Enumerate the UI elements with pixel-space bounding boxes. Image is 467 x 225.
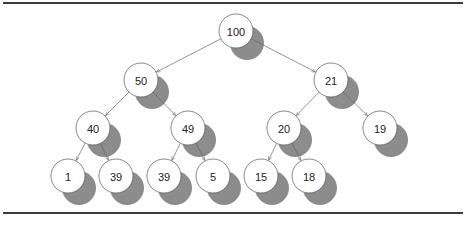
- tree-node: 39: [147, 159, 181, 193]
- tree-node: 15: [244, 159, 278, 193]
- tree-node: 50: [124, 63, 158, 97]
- node-label: 21: [325, 75, 337, 87]
- node-label: 18: [303, 171, 315, 183]
- tree-node: 39: [99, 159, 133, 193]
- tree-node: 19: [363, 111, 397, 145]
- node-label: 19: [374, 123, 386, 135]
- node-label: 40: [87, 123, 99, 135]
- node-label: 1: [65, 171, 71, 183]
- node-label: 20: [278, 123, 290, 135]
- tree-edge-arrow: [296, 92, 319, 115]
- node-label: 39: [110, 171, 122, 183]
- node-label: 100: [227, 26, 245, 38]
- node-label: 39: [158, 171, 170, 183]
- tree-edge-arrow: [157, 39, 221, 72]
- tree-edge-arrow: [172, 143, 181, 160]
- tree-node: 5: [196, 159, 230, 193]
- tree-edge-arrow: [76, 143, 85, 160]
- tree-node: 49: [171, 111, 205, 145]
- tree-diagram: 1005021404920191393951518: [0, 0, 467, 225]
- tree-edge-arrow: [269, 143, 277, 160]
- tree-node: 1: [51, 159, 85, 193]
- tree-node: 18: [292, 159, 326, 193]
- bottom-rule: [3, 212, 463, 214]
- tree-node: 100: [219, 14, 253, 48]
- node-label: 50: [135, 75, 147, 87]
- node-label: 15: [255, 171, 267, 183]
- tree-node: 20: [267, 111, 301, 145]
- tree-node: 40: [76, 111, 110, 145]
- tree-edge-arrow: [105, 92, 129, 116]
- node-label: 49: [182, 123, 194, 135]
- tree-edge-arrow: [251, 39, 315, 72]
- node-label: 5: [210, 171, 216, 183]
- tree-node: 21: [314, 63, 348, 97]
